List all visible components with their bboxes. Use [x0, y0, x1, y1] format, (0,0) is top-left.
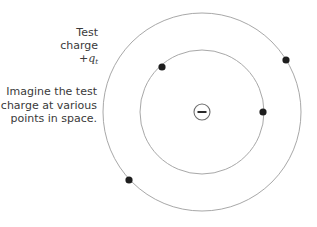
test-charge-dot [259, 108, 266, 115]
test-charge-label-line1: Test [18, 26, 98, 39]
test-charge-dot [158, 63, 165, 70]
caption-line3: points in space. [0, 112, 97, 126]
test-charge-label-line2: charge [18, 39, 98, 52]
test-charge-dot [125, 176, 132, 183]
instruction-caption: Imagine the test charge at various point… [0, 85, 97, 126]
test-charge-symbol: +qt [18, 52, 98, 69]
caption-line2: charge at various [0, 99, 97, 113]
caption-line1: Imagine the test [0, 85, 97, 99]
test-charge-label: Test charge +qt [18, 26, 98, 69]
test-charge-dot [282, 56, 289, 63]
negative-charge-icon [194, 104, 210, 120]
charge-subscript: t [95, 58, 98, 66]
plus-sign: + [79, 52, 88, 65]
